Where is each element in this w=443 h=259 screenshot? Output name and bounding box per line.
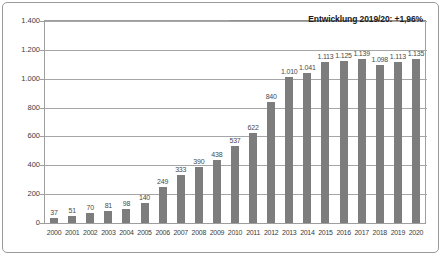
bar-slot: 51: [63, 21, 81, 223]
x-axis-tick-label: 2019: [389, 228, 407, 238]
y-axis-tick-label: 600: [0, 132, 40, 140]
y-axis-tick-mark: [40, 223, 44, 224]
bar[interactable]: [104, 211, 112, 223]
bar-slot: 1.010: [280, 21, 298, 223]
y-axis-tick-mark: [40, 194, 44, 195]
bar[interactable]: [394, 62, 402, 223]
x-axis-tick-label: 2009: [208, 228, 226, 238]
bar-slot: 840: [262, 21, 280, 223]
bar[interactable]: [358, 59, 366, 223]
bar[interactable]: [122, 209, 130, 223]
x-axis-tick-label: 2015: [316, 228, 334, 238]
bar[interactable]: [50, 218, 58, 223]
bar-value-label: 333: [175, 166, 186, 174]
y-axis-tick-mark: [40, 79, 44, 80]
bar-value-label: 1.113: [390, 53, 406, 61]
bar-series: 37517081981402493333904385376228401.0101…: [45, 21, 425, 223]
x-axis-tick-label: 2005: [135, 228, 153, 238]
bar-slot: 1.113: [389, 21, 407, 223]
bar-slot: 98: [117, 21, 135, 223]
chart-screenshot: 02004006008001.0001.2001.400 37517081981…: [0, 0, 443, 259]
bar-value-label: 622: [248, 124, 259, 132]
bar[interactable]: [285, 77, 293, 223]
bar-slot: 333: [172, 21, 190, 223]
bar-slot: 1.098: [371, 21, 389, 223]
bar-slot: 37: [45, 21, 63, 223]
bar[interactable]: [249, 133, 257, 223]
bar[interactable]: [321, 62, 329, 223]
bar[interactable]: [376, 65, 384, 223]
bar-slot: 1.139: [353, 21, 371, 223]
bar-value-label: 140: [139, 194, 150, 202]
y-axis-tick-mark: [40, 165, 44, 166]
x-axis-tick-label: 2007: [172, 228, 190, 238]
x-axis-tick-label: 2000: [45, 228, 63, 238]
x-axis-tick-label: 2003: [99, 228, 117, 238]
bar[interactable]: [177, 175, 185, 223]
bar-value-label: 81: [105, 202, 112, 210]
bar-value-label: 840: [266, 93, 277, 101]
x-axis-tick-label: 2017: [353, 228, 371, 238]
bar[interactable]: [86, 213, 94, 223]
x-axis-tick-label: 2004: [117, 228, 135, 238]
bar[interactable]: [231, 146, 239, 223]
y-axis-tick-label: 800: [0, 104, 40, 112]
bar[interactable]: [412, 59, 420, 223]
bar-slot: 70: [81, 21, 99, 223]
x-axis-tick-label: 2002: [81, 228, 99, 238]
bar-slot: 1.041: [298, 21, 316, 223]
bar-slot: 140: [135, 21, 153, 223]
bar-slot: 438: [208, 21, 226, 223]
y-axis-tick-mark: [40, 108, 44, 109]
x-axis-tick-label: 2006: [154, 228, 172, 238]
bar[interactable]: [267, 102, 275, 223]
y-axis-tick-label: 1.000: [0, 75, 40, 83]
bar-value-label: 249: [157, 178, 168, 186]
bar-value-label: 98: [123, 200, 130, 208]
x-axis-tick-label: 2010: [226, 228, 244, 238]
bar-slot: 622: [244, 21, 262, 223]
bar-value-label: 1.135: [408, 50, 425, 58]
bar-slot: 249: [154, 21, 172, 223]
chart-title-band: Entwicklung 2019/20: +1,96%: [230, 8, 426, 21]
bar-value-label: 438: [211, 151, 222, 159]
bar[interactable]: [213, 160, 221, 223]
x-axis-tick-label: 2020: [407, 228, 425, 238]
y-axis-tick-mark: [40, 21, 44, 22]
bar-slot: 537: [226, 21, 244, 223]
y-axis-tick-label: 1.200: [0, 46, 40, 54]
bar-value-label: 37: [50, 209, 57, 217]
x-axis-tick-label: 2008: [190, 228, 208, 238]
y-axis-tick-label: 200: [0, 190, 40, 198]
chart-title: Entwicklung 2019/20: +1,96%: [308, 14, 423, 24]
x-axis-tick-label: 2014: [298, 228, 316, 238]
bar[interactable]: [141, 203, 149, 223]
x-axis-tick-label: 2013: [280, 228, 298, 238]
bar[interactable]: [303, 73, 311, 223]
bar-value-label: 51: [68, 207, 75, 215]
y-axis-tick-label: 400: [0, 161, 40, 169]
bar-slot: 1.125: [335, 21, 353, 223]
bar-value-label: 1.010: [281, 68, 298, 76]
y-axis-tick-mark: [40, 136, 44, 137]
bar-value-label: 70: [87, 204, 94, 212]
bar-value-label: 1.041: [299, 64, 316, 72]
bar[interactable]: [195, 167, 203, 223]
x-axis-tick-label: 2011: [244, 228, 262, 238]
bar-slot: 390: [190, 21, 208, 223]
bar-value-label: 1.098: [371, 56, 388, 64]
bar-value-label: 1.113: [317, 53, 333, 61]
bar[interactable]: [340, 61, 348, 223]
bar-value-label: 537: [229, 137, 240, 145]
y-axis-tick-mark: [40, 50, 44, 51]
x-axis-tick-label: 2016: [335, 228, 353, 238]
bar[interactable]: [68, 216, 76, 223]
x-axis-tick-label: 2001: [63, 228, 81, 238]
bar-slot: 1.135: [407, 21, 425, 223]
bar-value-label: 1.139: [353, 50, 370, 58]
x-axis: 2000200120022003200420052006200720082009…: [45, 228, 425, 240]
bar-slot: 81: [99, 21, 117, 223]
bar-value-label: 390: [193, 158, 204, 166]
bar[interactable]: [159, 187, 167, 223]
bar-slot: 1.113: [316, 21, 334, 223]
